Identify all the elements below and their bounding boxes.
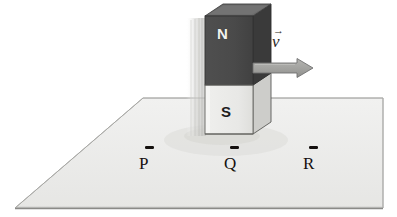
magnet-south-pole-label: S (221, 104, 231, 119)
point-label-p: P (139, 155, 148, 172)
point-marker-q (230, 146, 239, 149)
velocity-symbol: v (272, 34, 284, 49)
point-marker-r (309, 146, 318, 149)
scan-streak-artifact (186, 18, 206, 136)
point-label-r: R (303, 155, 314, 172)
magnet-north-pole-label: N (217, 26, 228, 41)
point-marker-p (145, 146, 154, 149)
diagram-canvas (0, 0, 397, 217)
velocity-vector-label: → v (272, 28, 284, 49)
point-label-q: Q (224, 155, 236, 172)
physics-diagram: N S → v P Q R (0, 0, 397, 217)
